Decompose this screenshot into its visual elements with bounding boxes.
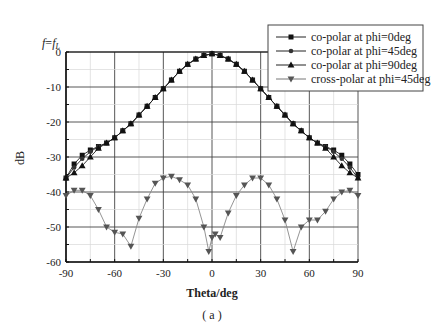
legend-label: co-polar at phi=45deg	[311, 44, 417, 58]
x-tick-label: -90	[59, 267, 74, 279]
legend-label: co-polar at phi=90deg	[311, 58, 417, 72]
legend: co-polar at phi=0degco-polar at phi=45de…	[268, 25, 430, 91]
y-tick-label: -40	[46, 186, 61, 198]
y-tick-label: -50	[46, 221, 61, 233]
y-tick-label: -20	[46, 116, 61, 128]
frequency-annotation: f=fL	[42, 36, 60, 51]
y-tick-label: -10	[46, 81, 61, 93]
x-tick-label: 0	[209, 267, 215, 279]
legend-label: co-polar at phi=0deg	[311, 30, 411, 44]
y-axis-title: dB	[13, 151, 27, 165]
x-tick-label: 90	[353, 267, 365, 279]
y-tick-label: -60	[46, 256, 61, 268]
x-tick-label: 60	[304, 267, 316, 279]
x-tick-label: -30	[156, 267, 171, 279]
chart: -90-60-3003060900-10-20-30-40-50-60 f=fL…	[0, 0, 444, 332]
y-tick-label: -30	[46, 151, 61, 163]
figure-caption: ( a )	[202, 308, 221, 322]
x-tick-label: -60	[107, 267, 122, 279]
x-axis-title: Theta/deg	[186, 286, 237, 300]
legend-label: cross-polar at phi=45deg	[311, 72, 430, 86]
x-tick-label: 30	[255, 267, 267, 279]
